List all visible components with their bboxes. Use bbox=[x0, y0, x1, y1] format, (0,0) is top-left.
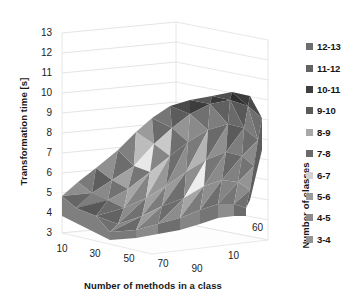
legend-item-label: 5-6 bbox=[317, 191, 330, 202]
z-tick-3: 3 bbox=[32, 227, 52, 238]
x-tick-30: 30 bbox=[84, 248, 106, 259]
legend-item[interactable]: 10-11 bbox=[306, 79, 358, 100]
legend-item[interactable]: 12-13 bbox=[306, 36, 358, 57]
y-tick-60: 60 bbox=[252, 222, 274, 233]
z-tick-10: 10 bbox=[32, 87, 52, 98]
surface-chart: 13 12 11 10 9 8 7 6 5 4 3 10 30 50 70 90… bbox=[0, 0, 358, 303]
z-tick-13: 13 bbox=[32, 27, 52, 38]
legend-item-label: 7-8 bbox=[317, 148, 330, 159]
legend: 12-13 11-12 10-11 9-10 8-9 7-8 6-7 5-6 bbox=[306, 36, 358, 250]
legend-item[interactable]: 3-4 bbox=[306, 229, 358, 250]
legend-swatch-icon bbox=[306, 65, 313, 72]
z-tick-9: 9 bbox=[32, 107, 52, 118]
legend-item[interactable]: 4-5 bbox=[306, 207, 358, 228]
z-tick-5: 5 bbox=[32, 187, 52, 198]
legend-item-label: 6-7 bbox=[317, 170, 330, 181]
legend-swatch-icon bbox=[306, 107, 313, 114]
legend-item-label: 3-4 bbox=[317, 234, 330, 245]
legend-item-label: 4-5 bbox=[317, 212, 330, 223]
legend-item[interactable]: 9-10 bbox=[306, 100, 358, 121]
legend-swatch-icon bbox=[306, 129, 313, 136]
legend-swatch-icon bbox=[306, 150, 313, 157]
legend-swatch-icon bbox=[306, 193, 313, 200]
legend-item-label: 10-11 bbox=[317, 84, 340, 95]
legend-item-label: 8-9 bbox=[317, 127, 330, 138]
legend-item-label: 12-13 bbox=[317, 41, 341, 52]
legend-swatch-icon bbox=[306, 214, 313, 221]
z-tick-11: 11 bbox=[32, 67, 52, 78]
z-tick-7: 7 bbox=[32, 147, 52, 158]
surface-mesh bbox=[62, 92, 262, 240]
z-tick-4: 4 bbox=[32, 207, 52, 218]
x-tick-90: 90 bbox=[186, 263, 208, 274]
z-axis-title: Transformation time [s] bbox=[18, 71, 29, 193]
legend-swatch-icon bbox=[306, 172, 313, 179]
legend-swatch-icon bbox=[306, 86, 313, 93]
legend-swatch-icon bbox=[306, 236, 313, 243]
z-tick-8: 8 bbox=[32, 127, 52, 138]
legend-swatch-icon bbox=[306, 43, 313, 50]
legend-item-label: 9-10 bbox=[317, 105, 336, 116]
z-tick-6: 6 bbox=[32, 167, 52, 178]
y-tick-10: 10 bbox=[228, 250, 250, 261]
plot-area bbox=[0, 0, 358, 303]
z-tick-12: 12 bbox=[32, 47, 52, 58]
legend-item[interactable]: 6-7 bbox=[306, 164, 358, 185]
legend-item[interactable]: 7-8 bbox=[306, 143, 358, 164]
x-axis-title: Number of methods in a class bbox=[48, 280, 258, 291]
legend-item[interactable]: 8-9 bbox=[306, 122, 358, 143]
legend-item[interactable]: 11-12 bbox=[306, 57, 358, 78]
x-tick-10: 10 bbox=[51, 243, 73, 254]
x-tick-50: 50 bbox=[118, 253, 140, 264]
legend-item-label: 11-12 bbox=[317, 63, 340, 74]
x-tick-70: 70 bbox=[152, 258, 174, 269]
legend-item[interactable]: 5-6 bbox=[306, 186, 358, 207]
